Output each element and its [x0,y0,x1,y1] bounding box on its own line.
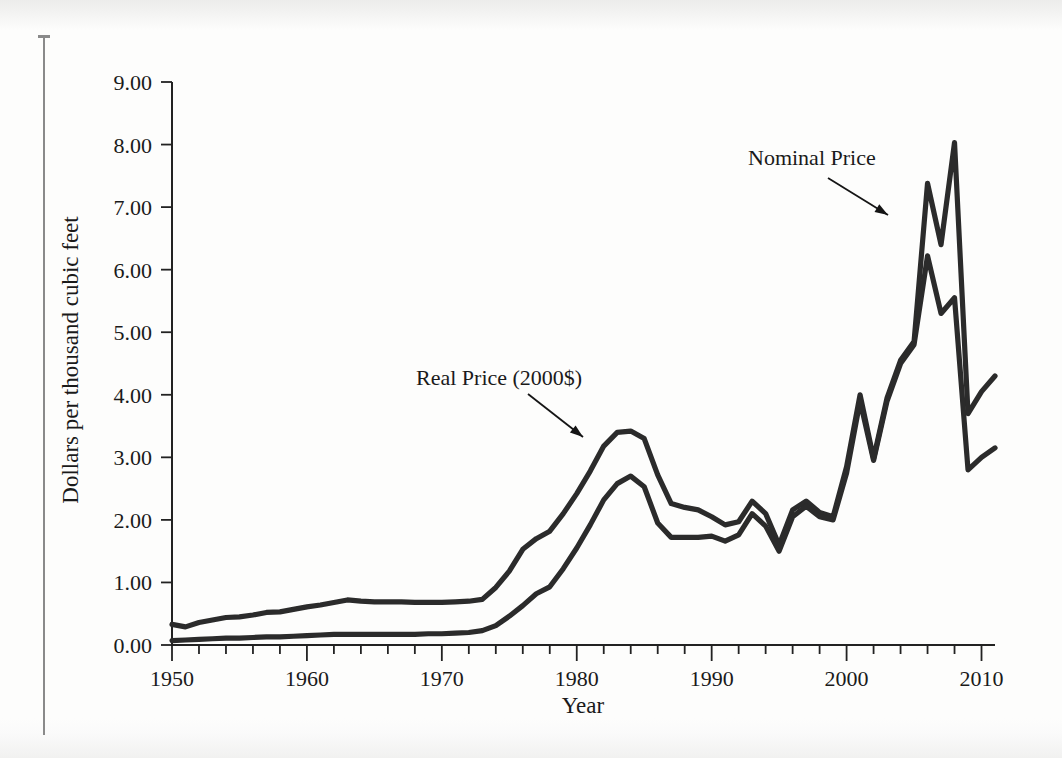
x-axis-tick-label: 1960 [285,666,329,691]
x-axis-tick-label: 1990 [690,666,734,691]
y-axis-tick-label: 9.00 [114,70,153,95]
y-axis-tick-label: 3.00 [114,445,153,470]
x-axis-tick-label: 1950 [150,666,194,691]
annotation-label-real-price: Real Price (2000$) [416,365,582,390]
x-axis-tick-label: 2000 [825,666,869,691]
line-chart: 0.001.002.003.004.005.006.007.008.009.00… [0,0,1062,758]
y-axis-tick-label: 5.00 [114,320,153,345]
x-axis-tick-label: 1980 [555,666,599,691]
y-axis-tick-label: 8.00 [114,133,153,158]
chart-svg: 0.001.002.003.004.005.006.007.008.009.00… [0,0,1062,758]
annotation-label-nominal-price: Nominal Price [748,145,876,170]
x-axis-tick-label: 2010 [960,666,1004,691]
y-axis-tick-label: 1.00 [114,570,153,595]
y-axis-tick-label: 2.00 [114,508,153,533]
x-axis-tick-label: 1970 [420,666,464,691]
y-axis-tick-labels: 0.001.002.003.004.005.006.007.008.009.00 [114,70,153,658]
y-axis-tick-label: 6.00 [114,258,153,283]
y-axis-tick-label: 0.00 [114,633,153,658]
y-axis-tick-label: 7.00 [114,195,153,220]
annotation-arrowhead-nominal-price [875,204,889,215]
x-axis-tick-labels: 1950196019701980199020002010 [150,666,1004,691]
y-axis-ticks [161,82,172,645]
x-axis-ticks [172,645,982,661]
y-axis-title: Dollars per thousand cubic feet [58,216,83,504]
annotation-arrowhead-real-price [570,425,583,437]
series-line-nominal-price [172,256,995,641]
y-axis-tick-label: 4.00 [114,383,153,408]
x-axis-title: Year [562,693,605,718]
series-line-real-price [172,143,995,627]
